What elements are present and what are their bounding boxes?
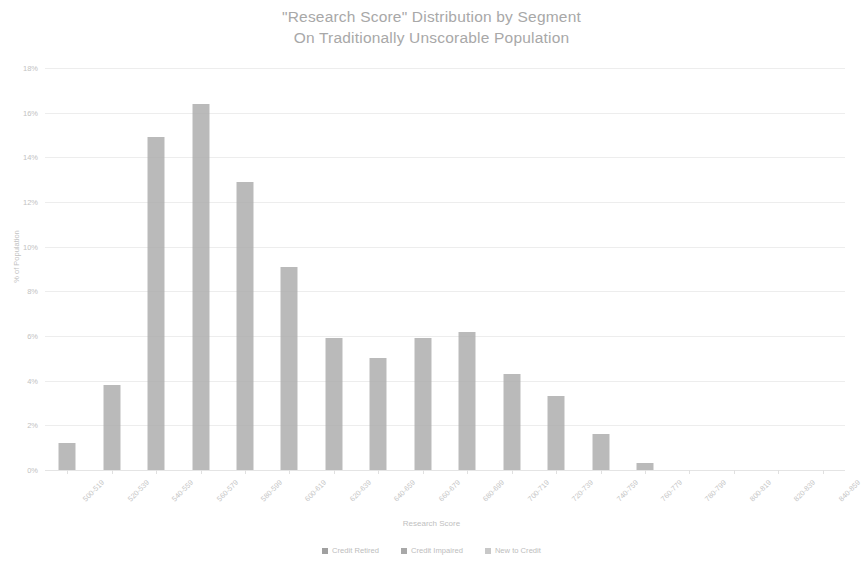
legend-swatch-icon <box>322 548 328 554</box>
x-axis-tick-label: 540-559 <box>170 478 195 503</box>
x-axis-tick-mark <box>512 470 513 474</box>
x-axis-tick-label: 500-519 <box>81 478 106 503</box>
bar[interactable] <box>103 385 120 470</box>
bar-slot[interactable] <box>667 68 711 470</box>
bar[interactable] <box>503 374 520 470</box>
bar[interactable] <box>236 182 253 470</box>
x-axis-tick-label: 740-759 <box>614 478 639 503</box>
chart-legend: Credit RetiredCredit ImpairedNew to Cred… <box>0 546 863 555</box>
x-axis-title: Research Score <box>0 519 863 528</box>
y-axis-tick-label: 8% <box>27 287 38 296</box>
y-axis-tick-label: 2% <box>27 421 38 430</box>
x-axis-tick-label: 560-579 <box>214 478 239 503</box>
bar-slot[interactable] <box>756 68 800 470</box>
x-axis-tick-label: 580-599 <box>259 478 284 503</box>
bar-slot[interactable] <box>489 68 533 470</box>
bar-slot[interactable] <box>534 68 578 470</box>
bar[interactable] <box>59 443 76 470</box>
x-axis-tick-mark <box>823 470 824 474</box>
x-axis-tick-mark <box>289 470 290 474</box>
x-axis-tick-mark <box>334 470 335 474</box>
bar-slot[interactable] <box>356 68 400 470</box>
bar[interactable] <box>370 358 387 470</box>
legend-label: New to Credit <box>495 546 541 555</box>
bar-slot[interactable] <box>45 68 89 470</box>
bar[interactable] <box>325 338 342 470</box>
legend-label: Credit Impaired <box>411 546 463 555</box>
x-axis-tick-mark <box>645 470 646 474</box>
x-axis-tick-label: 700-719 <box>526 478 551 503</box>
x-axis-tick-mark <box>245 470 246 474</box>
y-axis-tick-label: 14% <box>23 153 38 162</box>
legend-swatch-icon <box>485 548 491 554</box>
chart-subtitle: On Traditionally Unscorable Population <box>0 27 863 48</box>
bar-slot[interactable] <box>223 68 267 470</box>
x-axis-tick-label: 800-819 <box>748 478 773 503</box>
x-axis-tick-label: 520-539 <box>126 478 151 503</box>
bar-slot[interactable] <box>89 68 133 470</box>
x-axis-tick-label: 820-839 <box>792 478 817 503</box>
y-axis-tick-label: 16% <box>23 108 38 117</box>
x-axis-tick-label: 640-659 <box>392 478 417 503</box>
x-axis-tick-mark <box>467 470 468 474</box>
x-axis-tick-mark <box>556 470 557 474</box>
y-axis-tick-label: 18% <box>23 64 38 73</box>
x-axis-tick-label: 840-859 <box>837 478 862 503</box>
chart-title-block: "Research Score" Distribution by Segment… <box>0 6 863 48</box>
x-axis-tick-mark <box>67 470 68 474</box>
bar-slot[interactable] <box>401 68 445 470</box>
bar-slot[interactable] <box>712 68 756 470</box>
x-axis-tick-mark <box>601 470 602 474</box>
bar-slot[interactable] <box>445 68 489 470</box>
bar-slot[interactable] <box>134 68 178 470</box>
y-axis-tick-label: 6% <box>27 332 38 341</box>
x-axis-tick-label: 660-679 <box>437 478 462 503</box>
x-axis-tick-mark <box>378 470 379 474</box>
x-axis-tick-mark <box>778 470 779 474</box>
x-axis-tick-label: 600-619 <box>303 478 328 503</box>
legend-label: Credit Retired <box>332 546 379 555</box>
bar-slot[interactable] <box>578 68 622 470</box>
legend-item[interactable]: Credit Retired <box>322 546 379 555</box>
x-axis-tick-mark <box>201 470 202 474</box>
bar[interactable] <box>192 104 209 470</box>
bar-slot[interactable] <box>312 68 356 470</box>
bar-slot[interactable] <box>623 68 667 470</box>
x-axis-tick-label: 720-739 <box>570 478 595 503</box>
bar[interactable] <box>414 338 431 470</box>
y-axis-tick-label: 12% <box>23 198 38 207</box>
bar[interactable] <box>636 463 653 470</box>
bar[interactable] <box>148 137 165 470</box>
y-axis-title: % of Population <box>12 212 21 302</box>
bar[interactable] <box>548 396 565 470</box>
x-axis-tick-mark <box>734 470 735 474</box>
y-axis: 18%16%14%12%10%8%6%4%2%0% <box>0 68 45 470</box>
bar-series-credit-retired <box>45 68 845 470</box>
chart-title: "Research Score" Distribution by Segment <box>0 6 863 27</box>
legend-item[interactable]: Credit Impaired <box>401 546 463 555</box>
bar[interactable] <box>592 434 609 470</box>
x-axis-tick-mark <box>689 470 690 474</box>
x-axis-tick-label: 680-699 <box>481 478 506 503</box>
bar-slot[interactable] <box>267 68 311 470</box>
x-axis-tick-mark <box>156 470 157 474</box>
x-axis-tick-label: 780-799 <box>703 478 728 503</box>
legend-swatch-icon <box>401 548 407 554</box>
bar-slot[interactable] <box>801 68 845 470</box>
bar[interactable] <box>281 267 298 470</box>
x-axis-tick-mark <box>423 470 424 474</box>
legend-item[interactable]: New to Credit <box>485 546 541 555</box>
y-axis-tick-label: 0% <box>27 466 38 475</box>
y-axis-tick-label: 4% <box>27 376 38 385</box>
x-axis-tick-mark <box>112 470 113 474</box>
y-axis-tick-label: 10% <box>23 242 38 251</box>
bar[interactable] <box>459 332 476 470</box>
bar-slot[interactable] <box>178 68 222 470</box>
x-axis-tick-label: 620-639 <box>348 478 373 503</box>
x-axis-tick-label: 760-779 <box>659 478 684 503</box>
